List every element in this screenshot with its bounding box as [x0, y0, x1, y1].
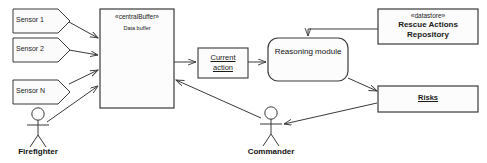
current-action-node	[198, 48, 248, 78]
sensor-node-2	[13, 38, 70, 62]
sensor-node-n	[13, 80, 70, 104]
risks-node	[378, 86, 478, 112]
flow-reasoning-to-risks	[348, 78, 377, 91]
central-buffer-node	[100, 9, 174, 108]
flow-sensor2-to-buffer	[69, 50, 98, 55]
actor-commander	[260, 107, 282, 146]
flow-sensorn-to-buffer	[69, 70, 98, 84]
flow-sensor1-to-buffer	[69, 22, 98, 38]
flow-risks-to-commander	[284, 103, 377, 124]
reasoning-module-node	[268, 38, 348, 81]
flow-commander-to-buffer	[176, 80, 261, 118]
diagram-canvas	[0, 0, 487, 163]
actor-firefighter	[27, 108, 49, 147]
sensor-node-1	[13, 9, 70, 33]
flow-repository-to-reasoning	[308, 29, 378, 36]
repository-node	[378, 9, 478, 44]
uml-activity-diagram: Sensor 1 Sensor 2 Sensor N «centralBuffe…	[0, 0, 487, 163]
